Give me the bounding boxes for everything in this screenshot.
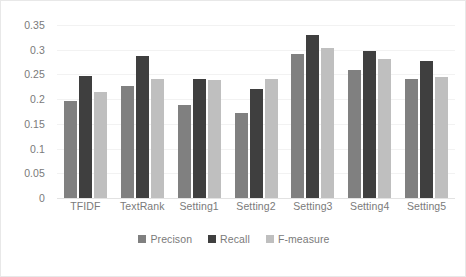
bar: [178, 105, 191, 198]
bar-group: [284, 25, 341, 198]
bar-group: [341, 25, 398, 198]
bar-groups: [57, 25, 455, 198]
y-axis-tick-label: 0.3: [30, 44, 45, 56]
bar-group: [228, 25, 285, 198]
bar: [64, 101, 77, 198]
bar: [291, 54, 304, 198]
bar-group: [114, 25, 171, 198]
legend-swatch-icon: [208, 235, 216, 243]
legend-label: F-measure: [278, 233, 330, 245]
bar: [378, 59, 391, 198]
bar: [420, 61, 433, 198]
legend-label: Precison: [150, 233, 192, 245]
chart-legend: PrecisonRecallF-measure: [1, 233, 466, 245]
bar: [435, 77, 448, 198]
bar: [405, 79, 418, 198]
bar: [193, 79, 206, 198]
bar: [121, 86, 134, 198]
x-axis-tick-label: Setting5: [398, 200, 455, 212]
y-axis-tick-label: 0: [39, 192, 45, 204]
x-axis-tick-label: Setting3: [284, 200, 341, 212]
bar: [151, 79, 164, 198]
legend-label: Recall: [220, 233, 250, 245]
bar-group: [171, 25, 228, 198]
bar-group: [398, 25, 455, 198]
bar: [265, 79, 278, 198]
x-axis-tick-label: Setting4: [341, 200, 398, 212]
gridline: [57, 198, 455, 199]
x-axis-tick-label: Setting2: [228, 200, 285, 212]
bar: [235, 113, 248, 198]
bar: [208, 80, 221, 198]
y-axis-tick-label: 0.1: [30, 143, 45, 155]
legend-item[interactable]: Precison: [138, 233, 192, 245]
legend-item[interactable]: Recall: [208, 233, 250, 245]
x-axis-tick-label: Setting1: [171, 200, 228, 212]
y-axis-tick-label: 0.25: [24, 68, 45, 80]
bar-group: [57, 25, 114, 198]
y-axis-tick-label: 0.15: [24, 118, 45, 130]
x-axis: TFIDFTextRankSetting1Setting2Setting3Set…: [57, 200, 455, 212]
bar: [306, 35, 319, 198]
bar: [348, 70, 361, 198]
bar-chart: 00.050.10.150.20.250.30.35 TFIDFTextRank…: [0, 0, 466, 277]
y-axis-tick-label: 0.05: [24, 167, 45, 179]
x-axis-tick-label: TFIDF: [57, 200, 114, 212]
bar: [321, 48, 334, 198]
bar: [250, 89, 263, 198]
y-axis: 00.050.10.150.20.250.30.35: [1, 25, 51, 198]
y-axis-tick-label: 0.35: [24, 19, 45, 31]
y-axis-tick-label: 0.2: [30, 93, 45, 105]
legend-swatch-icon: [138, 235, 146, 243]
legend-swatch-icon: [266, 235, 274, 243]
bar: [136, 56, 149, 198]
bar: [94, 92, 107, 198]
x-axis-tick-label: TextRank: [114, 200, 171, 212]
legend-item[interactable]: F-measure: [266, 233, 330, 245]
bar: [79, 76, 92, 198]
bar: [363, 51, 376, 198]
